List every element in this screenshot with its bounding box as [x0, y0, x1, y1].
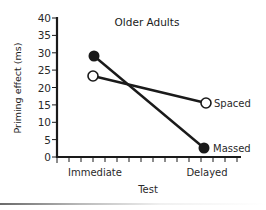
y-axis-label: Priming effect (ms): [12, 43, 23, 134]
series-line-spaced: [93, 76, 206, 103]
y-tick-25: 25: [38, 64, 51, 76]
y-tick-5: 5: [44, 134, 51, 146]
y-tick-20: 20: [38, 82, 51, 94]
x-category-delayed: Delayed: [186, 167, 227, 178]
marker-spaced-delayed: [201, 98, 211, 108]
series-label-spaced: Spaced: [214, 98, 251, 109]
marker-massed-delayed: [199, 143, 210, 154]
x-axis-label: Test: [137, 184, 158, 195]
line-chart: Older Adults Priming effect (ms) 40 35 3…: [0, 0, 266, 210]
marker-massed-immediate: [89, 51, 100, 62]
y-tick-35: 35: [38, 29, 51, 41]
y-tick-labels: 40 35 30 25 20 15 10 5 0: [38, 12, 51, 163]
marker-spaced-immediate: [88, 71, 98, 81]
bottom-divider: [0, 203, 266, 205]
y-tick-0: 0: [44, 151, 51, 163]
y-tick-15: 15: [38, 99, 51, 111]
y-tick-30: 30: [38, 47, 51, 59]
x-category-immediate: Immediate: [68, 167, 122, 178]
series-line-massed: [94, 56, 204, 148]
y-tick-10: 10: [38, 116, 51, 128]
series-label-massed: Massed: [213, 143, 251, 154]
chart-title: Older Adults: [115, 16, 180, 28]
y-tick-40: 40: [38, 12, 51, 24]
